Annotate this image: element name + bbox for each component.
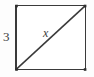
diagonal-length-label: x xyxy=(43,27,48,39)
corner-marker-bottom-right xyxy=(84,68,87,71)
side-length-label: 3 xyxy=(3,30,10,43)
corner-marker-top-left xyxy=(15,5,18,8)
geometry-figure: 3 x xyxy=(0,0,94,77)
corner-marker-bottom-left xyxy=(15,68,18,71)
corner-marker-top-right xyxy=(84,5,87,8)
